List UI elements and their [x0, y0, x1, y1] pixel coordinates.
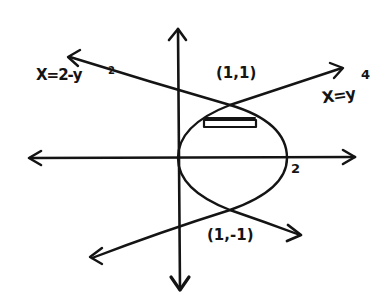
parabola-exponent: 2 — [108, 66, 115, 76]
point-label-lower: (1,-1) — [207, 228, 254, 243]
x-tick-label-2: 2 — [291, 162, 300, 175]
quartic-equation-label: X=y — [321, 86, 356, 106]
region-sketch — [0, 0, 391, 300]
parabola-curve — [68, 50, 301, 241]
x-axis — [29, 150, 355, 165]
horizontal-strip — [204, 118, 256, 127]
point-label-upper: (1,1) — [216, 66, 256, 81]
parabola-equation-label: X=2-y — [36, 68, 82, 83]
quartic-exponent: 4 — [361, 68, 370, 81]
